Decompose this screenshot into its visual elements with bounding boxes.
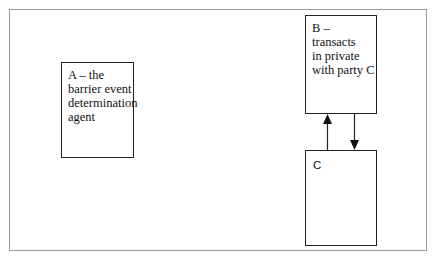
edges-layer (0, 0, 438, 260)
edge-c-to-b-arrow (323, 114, 332, 150)
edge-b-to-c-arrow (350, 114, 359, 150)
